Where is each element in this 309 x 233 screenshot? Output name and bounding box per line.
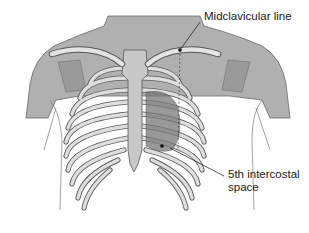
fifth-intercostal-space-label: 5th intercostal space xyxy=(228,168,300,194)
midclavicular-line-label: Midclavicular line xyxy=(204,10,292,23)
heart-outline xyxy=(146,91,180,151)
label-line-2: space xyxy=(228,181,300,194)
intercostal-point xyxy=(160,144,164,148)
sternum xyxy=(122,50,148,172)
rib-cage-illustration xyxy=(0,0,309,233)
label-line-1: 5th intercostal xyxy=(228,168,300,181)
chest-anatomy-figure: Midclavicular line 5th intercostal space xyxy=(0,0,309,233)
